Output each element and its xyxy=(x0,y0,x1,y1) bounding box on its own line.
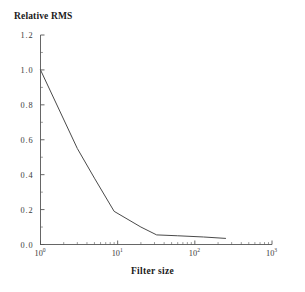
x-tick-labels: 100101102103 xyxy=(35,247,278,257)
plot-area: 0.00.20.40.60.81.01.2 100101102103 xyxy=(0,0,305,292)
x-axis-ticks xyxy=(41,241,273,245)
x-tick-label: 103 xyxy=(266,247,277,257)
y-tick-label: 1.0 xyxy=(20,66,33,75)
y-tick-labels: 0.00.20.40.60.81.01.2 xyxy=(20,31,33,250)
x-tick-label: 102 xyxy=(189,247,200,257)
x-axis-title: Filter size xyxy=(0,266,305,276)
y-tick-label: 0.4 xyxy=(20,171,33,180)
x-tick-label: 101 xyxy=(112,247,123,257)
data-series-line xyxy=(41,70,226,238)
y-tick-label: 0.8 xyxy=(20,101,33,110)
y-axis-ticks xyxy=(41,35,45,245)
y-tick-label: 0.6 xyxy=(20,136,33,145)
chart-figure: Relative RMS 0.00.20.40.60.81.01.2 10010… xyxy=(0,0,305,292)
y-tick-label: 0.0 xyxy=(20,241,33,250)
x-tick-label: 100 xyxy=(35,247,46,257)
y-tick-label: 1.2 xyxy=(20,31,33,40)
y-tick-label: 0.2 xyxy=(20,206,33,215)
